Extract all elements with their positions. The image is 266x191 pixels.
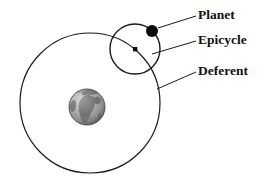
- earth-globe: [69, 89, 105, 125]
- label-deferent: Deferent: [198, 63, 248, 78]
- diagram-canvas: Planet Epicycle Deferent: [0, 0, 266, 191]
- label-planet: Planet: [198, 7, 235, 22]
- deferent-leader-line: [157, 72, 196, 89]
- epicycle-diagram: Planet Epicycle Deferent: [0, 0, 266, 191]
- label-epicycle: Epicycle: [198, 32, 247, 47]
- epicycle-center-marker: [133, 47, 137, 51]
- planet-dot: [146, 25, 158, 37]
- planet-leader-line: [158, 16, 196, 28]
